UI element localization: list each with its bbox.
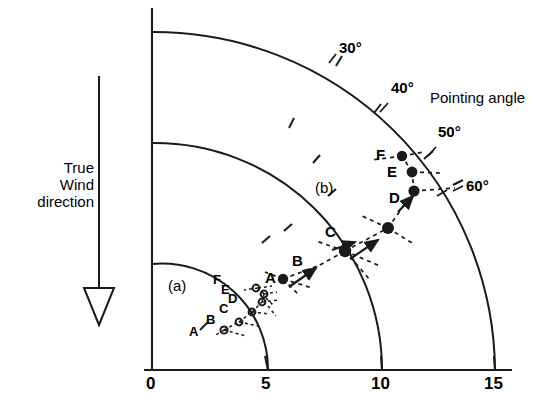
wind-label-line-2: Wind <box>22 177 94 194</box>
wind-arrow-head <box>84 288 114 325</box>
point-b-E <box>407 167 418 178</box>
a-dash-F-tail <box>244 288 258 290</box>
label-b-A: A <box>265 270 276 287</box>
label-a-A: A <box>189 325 198 340</box>
wind-label-line-3: direction <box>22 194 94 211</box>
panel-label-b: (b) <box>315 180 333 197</box>
point-b-A <box>278 274 288 284</box>
angle-tick-60-mid <box>453 180 463 185</box>
label-a-B: B <box>206 313 215 328</box>
x-tick-label-15: 15 <box>484 374 503 393</box>
angle-tick-30-inner <box>289 118 294 128</box>
angle-label-30: 30° <box>339 40 362 57</box>
leader-30 <box>329 54 336 63</box>
label-b-E: E <box>387 164 397 181</box>
angle-tick-40-inner <box>313 155 320 163</box>
x-axis-ticks <box>152 356 495 370</box>
point-b-D <box>408 185 419 196</box>
label-b-F: F <box>376 147 385 164</box>
point-b-mid <box>382 222 394 234</box>
angle-label-60: 60° <box>466 178 489 195</box>
a-dash-extra-1 <box>268 306 276 316</box>
label-a-E: E <box>221 283 230 298</box>
pointing-angle-label: Pointing angle <box>430 90 525 107</box>
point-b-C <box>339 245 351 257</box>
label-b-B: B <box>292 253 303 270</box>
x-tick-label-0: 0 <box>146 374 155 393</box>
angle-tick-inner-a <box>284 224 292 231</box>
wind-label-line-1: True <box>22 160 94 177</box>
x-tick-label-10: 10 <box>371 374 390 393</box>
figure-canvas: 0 5 10 15 30° 40° 50° 60° Pointing angle… <box>0 0 556 419</box>
label-b-C: C <box>325 224 336 241</box>
x-tick-label-5: 5 <box>261 374 270 393</box>
point-b-F <box>397 151 407 161</box>
true-wind-direction-label: True Wind direction <box>22 160 94 210</box>
angle-tick-inner-c <box>262 236 270 243</box>
angle-label-40: 40° <box>391 80 414 97</box>
b-dash-d-right <box>414 188 455 191</box>
label-a-C: C <box>219 302 228 317</box>
label-b-D: D <box>389 190 400 207</box>
panel-label-a: (a) <box>168 278 186 295</box>
cluster-b-arrows <box>289 196 413 287</box>
b-arrow-d <box>398 196 413 212</box>
polar-arcs <box>152 32 495 370</box>
angle-tick-30-outer <box>336 56 342 66</box>
angle-label-50: 50° <box>438 124 461 141</box>
arc-radius-15 <box>152 32 495 370</box>
a-dash-extra-2 <box>266 298 274 306</box>
label-a-F: F <box>213 273 221 288</box>
leader-50 <box>428 147 436 156</box>
a-dash-C-D <box>252 302 262 312</box>
b-arrow-a <box>289 268 316 287</box>
